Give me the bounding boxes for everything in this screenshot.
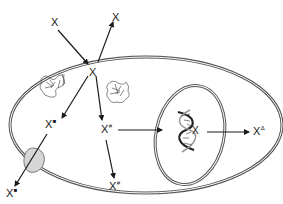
label-x-hash-membrane: X# bbox=[109, 181, 120, 192]
nucleus bbox=[146, 79, 233, 191]
diagram-canvas bbox=[0, 0, 283, 204]
transporter-icon bbox=[24, 148, 44, 172]
label-x-center: X bbox=[89, 67, 96, 78]
label-x-delta: XΔ bbox=[253, 126, 265, 137]
arrow-uptake bbox=[58, 30, 88, 64]
arrows bbox=[15, 22, 249, 186]
cell-diagram: X X X X■ X■ X# X# X XΔ bbox=[0, 0, 283, 204]
label-x-square-inside: X■ bbox=[45, 119, 56, 130]
label-x-square-outside: X■ bbox=[6, 188, 17, 199]
arrow-efflux bbox=[98, 22, 113, 62]
label-x-dna: X bbox=[192, 126, 199, 136]
protein-left-icon bbox=[40, 74, 65, 97]
label-x-outside-out: X bbox=[112, 12, 119, 23]
arrow-to-x-square bbox=[62, 76, 88, 118]
protein-right-icon bbox=[107, 81, 130, 102]
label-x-hash-mid: X# bbox=[101, 124, 112, 135]
arrow-to-x-hash bbox=[96, 76, 102, 120]
arrow-to-membrane-x-hash bbox=[106, 140, 114, 178]
label-x-outside-in: X bbox=[51, 17, 58, 28]
